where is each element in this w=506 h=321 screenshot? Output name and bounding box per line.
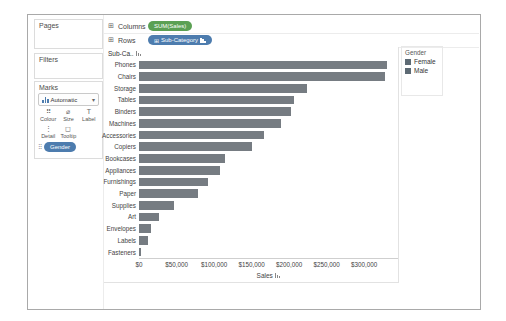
bar-row: Fasteners <box>106 246 398 258</box>
category-label[interactable]: Supplies <box>106 199 139 211</box>
category-label[interactable]: Paper <box>106 188 139 200</box>
bar[interactable] <box>139 119 281 128</box>
legend-swatch-icon <box>405 59 411 65</box>
x-axis-title-label: Sales <box>257 272 273 279</box>
colour-icon: ⠿ <box>46 108 51 116</box>
bar-chart-icon <box>42 97 49 103</box>
bar[interactable] <box>139 61 387 70</box>
category-label[interactable]: Furnishings <box>106 176 139 188</box>
mark-type-value: Automatic <box>51 97 78 103</box>
sum-sales-pill[interactable]: SUM(Sales) <box>148 21 192 31</box>
columns-shelf-label: Columns <box>118 23 144 30</box>
bar[interactable] <box>139 248 141 257</box>
bar-row: Appliances <box>106 164 398 176</box>
category-label[interactable]: Tables <box>106 94 139 106</box>
category-label[interactable]: Phones <box>106 59 139 71</box>
bar-row: Envelopes <box>106 223 398 235</box>
category-label[interactable]: Binders <box>106 106 139 118</box>
bar[interactable] <box>139 236 148 245</box>
category-label[interactable]: Copiers <box>106 141 139 153</box>
columns-shelf[interactable]: ⊞ Columns SUM(Sales) <box>104 19 479 34</box>
size-icon: ⌀ <box>66 108 70 116</box>
label-button[interactable]: T Label <box>79 108 99 123</box>
sort-descending-icon[interactable] <box>136 51 142 56</box>
bar[interactable] <box>139 131 264 140</box>
category-label[interactable]: Accessories <box>106 129 139 141</box>
x-axis-tick-label: $100,000 <box>201 261 227 268</box>
worksheet-frame: Pages Filters Marks Automatic ▾ ⠿ Colour… <box>27 14 481 310</box>
legend-item-label: Male <box>414 67 428 74</box>
row-header[interactable]: Sub-Ca.. <box>108 50 141 57</box>
x-axis-tick-label: $150,000 <box>238 261 264 268</box>
category-label[interactable]: Storage <box>106 82 139 94</box>
colour-button[interactable]: ⠿ Colour <box>38 108 58 123</box>
sub-category-pill-label: Sub-Category <box>161 37 198 43</box>
axis-sort-descending-icon <box>275 273 281 278</box>
tooltip-button[interactable]: ◻ Tooltip <box>58 125 78 140</box>
bar-track <box>139 82 398 94</box>
bar-track <box>139 176 398 188</box>
sum-sales-pill-label: SUM(Sales) <box>154 23 186 29</box>
bar[interactable] <box>139 201 174 210</box>
marks-buttons: ⠿ Colour ⌀ Size T Label ⋮ Detail ◻ Toolt… <box>38 108 99 139</box>
bar[interactable] <box>139 166 220 175</box>
bar-track <box>139 106 398 118</box>
bar[interactable] <box>139 142 252 151</box>
bar-row: Tables <box>106 94 398 106</box>
bar-track <box>139 199 398 211</box>
mark-type-dropdown[interactable]: Automatic ▾ <box>38 93 99 106</box>
bar-track <box>139 164 398 176</box>
bar[interactable] <box>139 84 307 93</box>
bar[interactable] <box>139 213 159 222</box>
bar-row: Paper <box>106 188 398 200</box>
x-axis-title[interactable]: Sales <box>139 272 398 279</box>
x-axis-tick-label: $250,000 <box>314 261 340 268</box>
sub-category-pill[interactable]: ⊞ Sub-Category <box>148 35 212 45</box>
bar[interactable] <box>139 96 294 105</box>
bar-rows: PhonesChairsStorageTablesBindersMachines… <box>106 59 398 258</box>
tooltip-icon: ◻ <box>65 125 71 133</box>
bar-row: Accessories <box>106 129 398 141</box>
bar[interactable] <box>139 224 151 233</box>
x-axis-ticks: $0$50,000$100,000$150,000$200,000$250,00… <box>139 261 398 270</box>
bar-row: Bookcases <box>106 153 398 165</box>
bar[interactable] <box>139 154 225 163</box>
category-label[interactable]: Labels <box>106 235 139 247</box>
chevron-down-icon: ▾ <box>92 96 95 103</box>
bar-chart: Sub-Ca.. PhonesChairsStorageTablesBinder… <box>104 47 399 283</box>
bar-row: Copiers <box>106 141 398 153</box>
detail-button-label: Detail <box>41 133 55 140</box>
pill-sort-descending-icon <box>200 38 206 43</box>
category-label[interactable]: Bookcases <box>106 153 139 165</box>
gender-pill[interactable]: Gender <box>44 142 76 152</box>
x-axis-tick-label: $200,000 <box>276 261 302 268</box>
bar[interactable] <box>139 178 208 187</box>
bar-row: Machines <box>106 118 398 130</box>
category-label[interactable]: Envelopes <box>106 223 139 235</box>
sub-category-pill-grid-icon: ⊞ <box>154 37 159 44</box>
bar-row: Chairs <box>106 71 398 83</box>
category-label[interactable]: Art <box>106 211 139 223</box>
detail-button[interactable]: ⋮ Detail <box>38 125 58 140</box>
rows-grid-icon: ⊞ <box>108 36 114 44</box>
legend-item[interactable]: Male <box>405 67 442 74</box>
category-label[interactable]: Machines <box>106 118 139 130</box>
bar-row: Furnishings <box>106 176 398 188</box>
bar-track <box>139 211 398 223</box>
category-label[interactable]: Fasteners <box>106 246 139 258</box>
bar[interactable] <box>139 189 198 198</box>
legend-swatch-icon <box>405 68 411 74</box>
gender-pill-label: Gender <box>50 144 70 150</box>
bar-row: Storage <box>106 82 398 94</box>
bar[interactable] <box>139 107 291 116</box>
marks-card-title: Marks <box>35 82 102 91</box>
colour-legend: Gender FemaleMale <box>401 46 443 96</box>
filters-card-title: Filters <box>35 54 102 63</box>
bar-row: Phones <box>106 59 398 71</box>
size-button[interactable]: ⌀ Size <box>58 108 78 123</box>
detail-icon: ⋮ <box>45 125 52 133</box>
category-label[interactable]: Chairs <box>106 71 139 83</box>
legend-item[interactable]: Female <box>405 58 442 65</box>
category-label[interactable]: Appliances <box>106 164 139 176</box>
bar[interactable] <box>139 72 385 81</box>
